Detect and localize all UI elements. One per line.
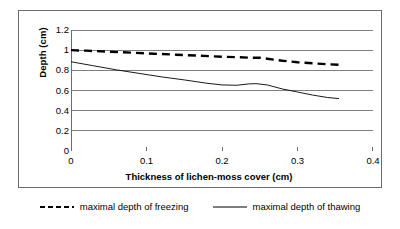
y-tick-label: 0.6 bbox=[23, 86, 69, 96]
chart-figure: Depth (cm) 00.20.40.60.811.2 00.10.20.30… bbox=[0, 0, 400, 229]
chart-frame: Depth (cm) 00.20.40.60.811.2 00.10.20.30… bbox=[18, 10, 382, 188]
y-axis-tick-labels: 00.20.40.60.811.2 bbox=[19, 30, 69, 151]
legend-item: maximal depth of freezing bbox=[40, 202, 189, 212]
chart-legend: maximal depth of freezingmaximal depth o… bbox=[18, 196, 382, 218]
y-tick-label: 0.4 bbox=[23, 106, 69, 116]
x-tick-label: 0.2 bbox=[202, 156, 242, 166]
x-axis-title: Thickness of lichen-moss cover (cm) bbox=[49, 171, 369, 182]
y-tick-label: 0.2 bbox=[23, 126, 69, 136]
legend-item: maximal depth of thawing bbox=[213, 202, 361, 212]
series-line-0 bbox=[71, 50, 339, 65]
x-tick-label: 0.4 bbox=[353, 156, 393, 166]
legend-label: maximal depth of freezing bbox=[80, 202, 189, 212]
y-tick-label: 1.2 bbox=[23, 25, 69, 35]
x-tick-label: 0 bbox=[51, 156, 91, 166]
legend-label: maximal depth of thawing bbox=[253, 202, 361, 212]
y-tick-label: 0.8 bbox=[23, 65, 69, 75]
plot-area bbox=[71, 30, 373, 151]
x-axis-tick-labels: 00.10.20.30.4 bbox=[71, 156, 373, 170]
legend-swatch-solid bbox=[213, 203, 247, 211]
x-tick-label: 0.1 bbox=[127, 156, 167, 166]
y-tick-label: 1 bbox=[23, 45, 69, 55]
plot-svg bbox=[71, 30, 373, 151]
y-tick-label: 0 bbox=[23, 146, 69, 156]
legend-swatch-dashed bbox=[40, 203, 74, 211]
x-tick-label: 0.3 bbox=[278, 156, 318, 166]
series-line-1 bbox=[71, 62, 339, 99]
